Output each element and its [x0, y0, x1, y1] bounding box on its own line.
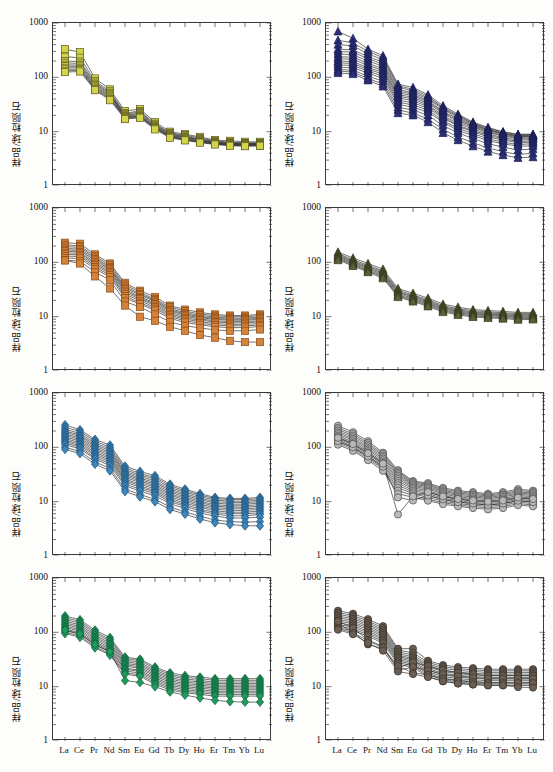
y-tick-label: 1000: [293, 572, 321, 582]
y-axis-label: 样品/球粒陨石: [283, 225, 297, 352]
y-tick-label: 10: [293, 681, 321, 691]
x-tick-label-ho: Ho: [466, 745, 477, 755]
y-tick-label: 100: [20, 256, 48, 266]
y-tick-label: 1: [293, 365, 321, 375]
plot-area-6: [325, 392, 544, 555]
panel-title-5: 阳新岩体: [166, 426, 210, 441]
chart-panel-3: 样品/球粒陨石1000100101铜绿山岩株: [0, 0, 553, 772]
x-tick-label-sm: Sm: [391, 745, 403, 755]
x-tick-label-tm: Tm: [496, 745, 509, 755]
y-axis-label: 样品/球粒陨石: [283, 40, 297, 167]
y-tick-label: 1000: [20, 387, 48, 397]
y-tick-label: 1000: [293, 17, 321, 27]
y-tick-label: 100: [293, 626, 321, 636]
chart-panel-4: 样品/球粒陨石1000100101铁山岩体: [0, 0, 553, 772]
x-tick-label-tb: Tb: [164, 745, 174, 755]
x-tick-label-pr: Pr: [90, 745, 98, 755]
panel-title-1: 铜山口岩株: [166, 56, 221, 71]
x-tick-label-yb: Yb: [238, 745, 249, 755]
chart-panel-7: 样品/球粒陨石1000100101殷祖岩体LaCePrNdSmEuGdTbDyH…: [0, 0, 553, 772]
x-tick-label-eu: Eu: [134, 745, 144, 755]
y-tick-label: 1000: [293, 202, 321, 212]
y-axis-label: 样品/球粒陨石: [10, 410, 24, 537]
y-tick-label: 10: [20, 681, 48, 691]
x-tick-label-dy: Dy: [451, 745, 462, 755]
y-tick-label: 1: [20, 365, 48, 375]
y-axis-label: 样品/球粒陨石: [10, 40, 24, 167]
panel-title-3: 铜绿山岩株: [166, 241, 221, 256]
panel-title-2: 灵乡岩体: [439, 56, 483, 71]
y-axis-label: 样品/球粒陨石: [283, 595, 297, 722]
x-tick-label-ce: Ce: [347, 745, 357, 755]
y-tick-label: 100: [293, 441, 321, 451]
y-tick-label: 100: [293, 256, 321, 266]
y-axis-label: 样品/球粒陨石: [10, 595, 24, 722]
y-tick-label: 1: [293, 550, 321, 560]
y-tick-label: 1000: [20, 17, 48, 27]
x-tick-label-sm: Sm: [118, 745, 130, 755]
x-tick-label-tb: Tb: [437, 745, 447, 755]
x-tick-label-dy: Dy: [178, 745, 189, 755]
plot-area-2: [325, 22, 544, 185]
chart-panel-5: 样品/球粒陨石1000100101阳新岩体: [0, 0, 553, 772]
x-tick-label-eu: Eu: [407, 745, 417, 755]
plot-area-4: [325, 207, 544, 370]
x-tick-label-ce: Ce: [74, 745, 84, 755]
panel-title-8: 金山店岩体: [439, 611, 494, 626]
y-tick-label: 100: [20, 71, 48, 81]
x-tick-label-gd: Gd: [149, 745, 160, 755]
y-tick-label: 100: [293, 71, 321, 81]
y-tick-label: 10: [20, 311, 48, 321]
plot-area-7: [52, 577, 271, 740]
panel-title-7: 殷祖岩体: [166, 611, 210, 626]
y-tick-label: 10: [20, 496, 48, 506]
y-tick-label: 10: [293, 496, 321, 506]
x-tick-label-la: La: [332, 745, 342, 755]
y-tick-label: 1: [293, 180, 321, 190]
x-tick-label-pr: Pr: [363, 745, 371, 755]
y-tick-label: 1000: [20, 202, 48, 212]
y-tick-label: 10: [293, 126, 321, 136]
x-tick-label-yb: Yb: [511, 745, 522, 755]
y-tick-label: 1000: [20, 572, 48, 582]
x-tick-label-lu: Lu: [254, 745, 264, 755]
chart-panel-2: 样品/球粒陨石1000100101灵乡岩体: [0, 0, 553, 772]
y-tick-label: 1: [20, 550, 48, 560]
plot-area-3: [52, 207, 271, 370]
chart-panel-6: 样品/球粒陨石1000100101鄂城岩体: [0, 0, 553, 772]
x-tick-label-lu: Lu: [527, 745, 537, 755]
y-tick-label: 1: [293, 735, 321, 745]
plot-area-8: [325, 577, 544, 740]
y-tick-label: 1: [20, 735, 48, 745]
plot-area-5: [52, 392, 271, 555]
x-tick-label-gd: Gd: [422, 745, 433, 755]
chart-panel-8: 样品/球粒陨石1000100101金山店岩体LaCePrNdSmEuGdTbDy…: [0, 0, 553, 772]
panel-title-6: 鄂城岩体: [439, 426, 483, 441]
x-tick-label-er: Er: [483, 745, 492, 755]
plot-area-1: [52, 22, 271, 185]
x-tick-label-la: La: [59, 745, 69, 755]
y-axis-label: 样品/球粒陨石: [283, 410, 297, 537]
y-axis-label: 样品/球粒陨石: [10, 225, 24, 352]
x-tick-label-er: Er: [210, 745, 219, 755]
y-tick-label: 1: [20, 180, 48, 190]
y-tick-label: 1000: [293, 387, 321, 397]
x-tick-label-nd: Nd: [104, 745, 115, 755]
y-tick-label: 100: [20, 626, 48, 636]
x-tick-label-ho: Ho: [193, 745, 204, 755]
y-tick-label: 100: [20, 441, 48, 451]
y-tick-label: 10: [293, 311, 321, 321]
y-tick-label: 10: [20, 126, 48, 136]
x-tick-label-nd: Nd: [377, 745, 388, 755]
ree-spider-diagram-figure: 样品/球粒陨石1000100101铜山口岩株样品/球粒陨石1000100101灵…: [0, 0, 553, 772]
chart-panel-1: 样品/球粒陨石1000100101铜山口岩株: [0, 0, 553, 772]
panel-title-4: 铁山岩体: [439, 241, 483, 256]
x-tick-label-tm: Tm: [223, 745, 236, 755]
